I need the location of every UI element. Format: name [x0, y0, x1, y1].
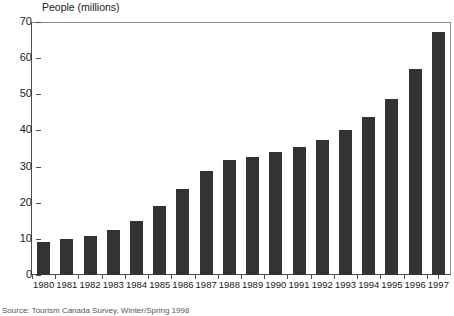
bar [432, 32, 445, 275]
x-axis-tick-label: 1997 [427, 279, 450, 291]
bar-chart-figure: People (millions) 010203040506070 198019… [0, 0, 454, 316]
x-axis-tick-label: 1984 [125, 279, 148, 291]
x-axis-tick-mark [438, 275, 439, 279]
bar [60, 239, 73, 275]
x-axis-tick-mark [264, 275, 265, 279]
chart-title: People (millions) [42, 1, 120, 13]
x-axis-tick-label: 1982 [78, 279, 101, 291]
bar [84, 236, 97, 275]
x-axis-tick-label: 1992 [311, 279, 334, 291]
x-axis-tick-label: 1987 [195, 279, 218, 291]
bar [385, 99, 398, 275]
x-axis-tick-label: 1989 [241, 279, 264, 291]
x-axis-tick-mark [32, 275, 33, 279]
x-axis: 1980198119821983198419851986198719881989… [32, 279, 450, 293]
source-note: Source: Tourism Canada Survey, Winter/Sp… [2, 306, 189, 316]
x-axis-tick-mark [148, 275, 149, 279]
x-axis-tick-label: 1980 [32, 279, 55, 291]
bar [316, 140, 329, 275]
bars-layer [32, 22, 450, 275]
x-axis-tick-label: 1985 [148, 279, 171, 291]
x-axis-tick-mark [404, 275, 405, 279]
bar [200, 171, 213, 275]
x-axis-tick-mark [195, 275, 196, 279]
y-axis-tick-label: 50 [20, 87, 32, 100]
x-axis-tick-label: 1991 [287, 279, 310, 291]
x-axis-tick-label: 1986 [171, 279, 194, 291]
y-axis-tick-label: 20 [20, 196, 32, 209]
bar [269, 152, 282, 275]
x-axis-tick-mark [218, 275, 219, 279]
x-axis-tick-mark [241, 275, 242, 279]
bar [37, 242, 50, 275]
bar [107, 230, 120, 275]
x-axis-tick-mark [171, 275, 172, 279]
y-axis-tick-label: 40 [20, 123, 32, 136]
x-axis-tick-mark [380, 275, 381, 279]
x-axis-tick-mark [125, 275, 126, 279]
x-axis-tick-mark [78, 275, 79, 279]
x-axis-tick-mark [334, 275, 335, 279]
x-axis-tick-label: 1983 [102, 279, 125, 291]
bar [339, 130, 352, 275]
x-axis-tick-label: 1990 [264, 279, 287, 291]
y-axis-tick-label: 60 [20, 51, 32, 64]
y-axis-tick-label: 10 [20, 232, 32, 245]
x-axis-tick-label: 1995 [380, 279, 403, 291]
bar [362, 117, 375, 275]
x-axis-tick-label: 1988 [218, 279, 241, 291]
bar [130, 221, 143, 275]
y-axis-tick-label: 30 [20, 160, 32, 173]
x-axis-tick-label: 1996 [404, 279, 427, 291]
y-axis-tick-mark [36, 275, 41, 276]
x-axis-tick-label: 1993 [334, 279, 357, 291]
bar [409, 69, 422, 275]
bar [176, 189, 189, 275]
x-axis-tick-mark [357, 275, 358, 279]
x-axis-tick-label: 1994 [357, 279, 380, 291]
x-axis-tick-mark [102, 275, 103, 279]
x-axis-tick-label: 1981 [55, 279, 78, 291]
bar [153, 206, 166, 275]
x-axis-tick-mark [287, 275, 288, 279]
bar [223, 160, 236, 275]
x-axis-tick-mark [55, 275, 56, 279]
x-axis-tick-mark [311, 275, 312, 279]
bar [293, 147, 306, 275]
y-axis-tick-label: 70 [20, 15, 32, 28]
bar [246, 157, 259, 275]
x-axis-tick-mark [427, 275, 428, 279]
